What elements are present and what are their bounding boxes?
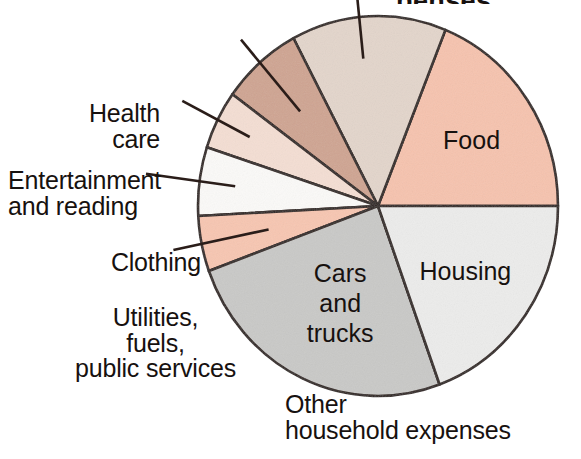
entertainment-line-1: Entertainment [8,166,161,194]
clothing-line-1: Clothing [111,248,201,276]
slice-label-housing: Housing [420,257,512,285]
slice-label-other-household-expenses: Other household expenses [285,392,511,443]
health-care-line-2: care [112,125,160,153]
entertainment-line-2: and reading [8,192,138,220]
slice-label-utilities-fuels-public-services: Utilities, fuels, public services [36,305,275,382]
slice-label-entertainment-and-reading: Entertainment and reading [8,168,218,219]
utilities-line-2: fuels, [126,329,185,357]
utilities-line-1: Utilities, [113,303,199,331]
pie-chart-figure: penses FoodCarsandtrucksHousing Health c… [0,0,581,459]
slice-label-food: Food [443,125,500,153]
other-household-line-2: household expenses [285,416,511,444]
health-care-line-1: Health [89,99,160,127]
slice-label-clothing: Clothing [111,250,201,276]
slice-label-health-care: Health care [89,101,160,152]
utilities-line-3: public services [75,354,236,382]
other-household-line-1: Other [285,390,347,418]
